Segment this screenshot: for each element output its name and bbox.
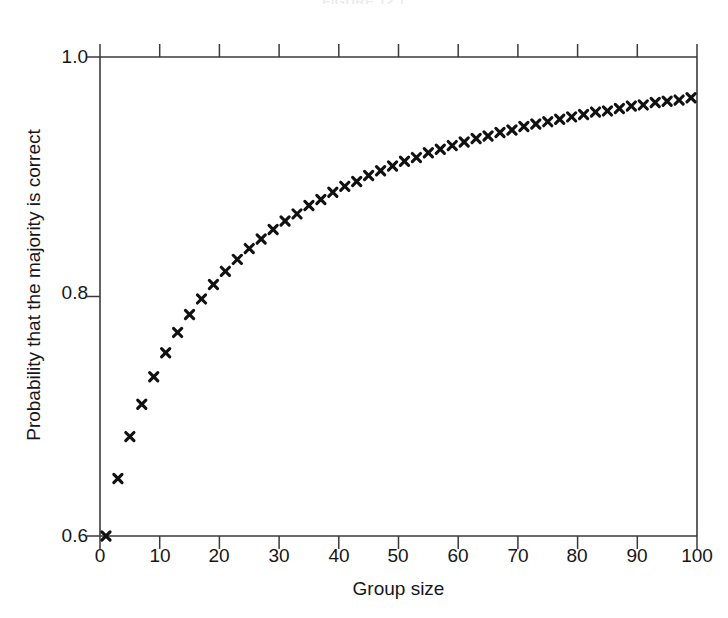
data-point-marker <box>185 310 193 318</box>
data-point-marker <box>603 107 611 115</box>
data-point-marker <box>317 195 325 203</box>
x-ticks-bottom-group <box>100 536 697 549</box>
data-point-marker <box>424 149 432 157</box>
figure-container: FIGURE 12.1 Probability that the majorit… <box>0 0 728 618</box>
data-point-marker <box>305 201 313 209</box>
data-point-marker <box>568 113 576 121</box>
data-point-marker <box>293 210 301 218</box>
data-point-marker <box>400 157 408 165</box>
data-point-marker <box>138 400 146 408</box>
data-point-marker <box>281 217 289 225</box>
data-point-marker <box>627 102 635 110</box>
data-point-marker <box>639 101 647 109</box>
data-point-marker <box>209 280 217 288</box>
data-point-marker <box>472 134 480 142</box>
scatter-plot-svg <box>0 0 728 618</box>
data-point-marker <box>353 177 361 185</box>
data-point-marker <box>329 188 337 196</box>
data-point-marker <box>436 145 444 153</box>
data-point-marker <box>197 295 205 303</box>
data-point-marker <box>496 128 504 136</box>
data-point-marker <box>126 433 134 441</box>
data-point-marker <box>162 349 170 357</box>
y-ticks-left-group <box>87 57 100 536</box>
data-point-marker <box>460 138 468 146</box>
data-point-marker <box>174 328 182 336</box>
data-point-marker <box>687 94 695 102</box>
data-point-marker <box>269 225 277 233</box>
data-point-marker <box>388 162 396 170</box>
data-point-marker <box>257 235 265 243</box>
data-point-marker <box>484 132 492 140</box>
data-point-marker <box>233 255 241 263</box>
data-point-group <box>102 94 695 540</box>
data-point-marker <box>412 153 420 161</box>
data-point-marker <box>376 167 384 175</box>
data-point-marker <box>508 126 516 134</box>
x-ticks-top-group <box>100 44 697 57</box>
data-point-marker <box>114 474 122 482</box>
data-point-marker <box>341 182 349 190</box>
data-point-marker <box>365 171 373 179</box>
data-point-marker <box>591 108 599 116</box>
data-point-marker <box>579 110 587 118</box>
data-point-marker <box>150 373 158 381</box>
data-point-marker <box>448 142 456 150</box>
data-point-marker <box>675 96 683 104</box>
data-point-marker <box>651 98 659 106</box>
axis-frame <box>100 57 697 536</box>
data-point-marker <box>221 267 229 275</box>
data-point-marker <box>520 122 528 130</box>
data-point-marker <box>544 118 552 126</box>
data-point-marker <box>532 120 540 128</box>
data-point-marker <box>245 245 253 253</box>
data-point-marker <box>556 115 564 123</box>
data-point-marker <box>615 104 623 112</box>
data-point-marker <box>663 97 671 105</box>
